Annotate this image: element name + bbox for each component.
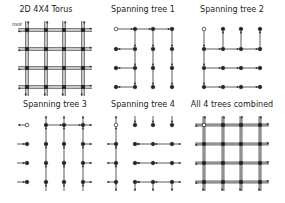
arrowhead xyxy=(18,49,20,52)
node xyxy=(258,180,262,184)
node xyxy=(151,47,155,51)
node xyxy=(170,180,174,184)
node xyxy=(44,66,48,70)
root-node xyxy=(114,27,118,31)
arrowhead xyxy=(152,64,155,66)
panel-title-tree3: Spanning tree 3 xyxy=(23,100,87,109)
arrowhead xyxy=(237,67,239,70)
node xyxy=(44,47,48,51)
node xyxy=(258,142,262,146)
arrowhead xyxy=(82,184,85,186)
node xyxy=(239,180,243,184)
node xyxy=(44,180,48,184)
arrowhead xyxy=(267,180,269,183)
arrowhead xyxy=(219,67,221,70)
panel-title-tree4: Spanning tree 4 xyxy=(111,100,175,109)
node xyxy=(133,66,137,70)
node xyxy=(170,66,174,70)
node xyxy=(25,66,29,70)
arrowhead xyxy=(115,189,118,191)
node xyxy=(25,180,29,184)
arrowhead xyxy=(134,45,137,47)
node xyxy=(170,85,174,89)
arrowhead xyxy=(221,189,224,191)
node xyxy=(221,66,225,70)
arrowhead xyxy=(23,143,25,146)
arrowhead xyxy=(171,189,174,191)
node xyxy=(44,142,48,146)
node xyxy=(170,27,174,31)
node xyxy=(81,47,85,51)
node xyxy=(114,47,118,51)
arrowhead xyxy=(179,181,181,184)
node xyxy=(151,27,155,31)
arrowhead xyxy=(90,124,92,127)
arrowhead xyxy=(155,162,157,165)
arrowhead xyxy=(203,45,206,47)
arrowhead xyxy=(195,125,197,128)
arrowhead xyxy=(195,163,197,166)
arrowhead xyxy=(107,143,109,146)
arrowhead xyxy=(203,83,206,85)
arrowhead xyxy=(260,116,263,118)
node xyxy=(239,142,243,146)
arrowhead xyxy=(203,64,206,66)
arrowhead xyxy=(90,66,92,69)
node xyxy=(170,161,174,165)
arrowhead xyxy=(237,48,239,51)
arrowhead xyxy=(134,121,137,123)
arrowhead xyxy=(118,48,120,51)
node xyxy=(170,123,174,127)
node xyxy=(151,142,155,146)
root-node xyxy=(202,27,206,31)
arrowhead xyxy=(90,143,92,146)
node xyxy=(170,142,174,146)
node xyxy=(62,180,66,184)
arrowhead xyxy=(25,94,28,96)
arrowhead xyxy=(149,28,151,31)
node xyxy=(81,142,85,146)
node xyxy=(221,142,225,146)
arrowhead xyxy=(204,116,207,118)
node xyxy=(133,85,137,89)
arrowhead xyxy=(219,48,221,51)
arrowhead xyxy=(258,189,261,191)
arrowhead xyxy=(63,165,66,167)
arrowhead xyxy=(195,144,197,147)
arrowhead xyxy=(118,67,120,70)
arrowhead xyxy=(82,146,85,148)
node xyxy=(221,85,225,89)
arrowhead xyxy=(107,181,109,184)
node xyxy=(25,85,29,89)
node xyxy=(202,180,206,184)
node xyxy=(202,161,206,165)
arrowhead xyxy=(152,45,155,47)
arrowhead xyxy=(179,143,181,146)
arrowhead xyxy=(63,116,66,118)
arrowhead xyxy=(241,116,244,118)
arrowhead xyxy=(23,162,25,165)
arrowhead xyxy=(152,189,155,191)
node xyxy=(114,85,118,89)
arrowhead xyxy=(267,123,269,126)
node xyxy=(151,180,155,184)
node xyxy=(239,123,243,127)
arrowhead xyxy=(83,21,86,23)
node xyxy=(239,161,243,165)
node xyxy=(133,47,137,51)
node xyxy=(202,47,206,51)
node xyxy=(239,66,243,70)
arrowhead xyxy=(82,127,85,129)
arrowhead xyxy=(155,143,157,146)
arrowhead xyxy=(171,45,174,47)
node xyxy=(62,142,66,146)
arrowhead xyxy=(256,67,258,70)
arrowhead xyxy=(46,21,49,23)
node xyxy=(44,161,48,165)
arrowhead xyxy=(171,64,174,66)
node xyxy=(62,28,66,32)
arrowhead xyxy=(134,83,137,85)
node xyxy=(221,161,225,165)
node xyxy=(133,142,137,146)
arrowhead xyxy=(18,87,20,90)
